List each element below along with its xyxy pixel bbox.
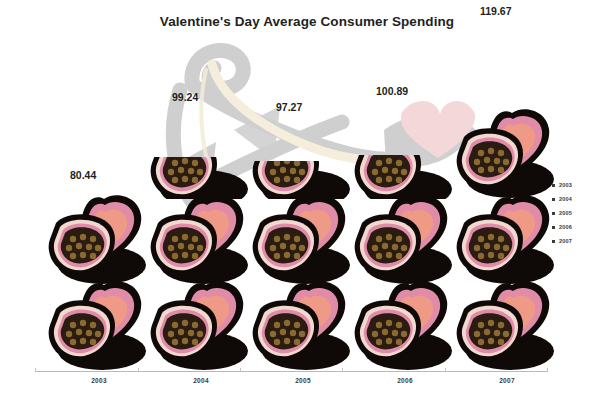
x-axis-label-2005: 2005 — [247, 377, 359, 384]
legend-item-label: 2007 — [559, 238, 572, 244]
axis-tick — [35, 368, 36, 372]
icon-stack-2007 — [450, 107, 562, 371]
chocolate-box-icon — [246, 193, 354, 285]
chocolate-box-icon — [450, 193, 558, 285]
chocolate-box-icon — [348, 279, 456, 371]
plot-area: 80.44 — [0, 0, 614, 407]
legend-item-2004[interactable]: 2004 — [552, 192, 572, 206]
x-axis-label-2004: 2004 — [145, 377, 257, 384]
legend-swatch-icon — [552, 184, 555, 187]
legend-item-label: 2004 — [559, 196, 572, 202]
legend-item-label: 2006 — [559, 224, 572, 230]
chocolate-box-icon — [348, 193, 456, 285]
value-label-2007: 119.67 — [480, 5, 512, 17]
value-label-2004: 99.24 — [172, 91, 198, 103]
legend-item-2003[interactable]: 2003 — [552, 178, 572, 192]
bar-column-2004: 99.24 — [144, 157, 256, 371]
legend-swatch-icon — [552, 226, 555, 229]
legend-item-2005[interactable]: 2005 — [552, 206, 572, 220]
bar-column-2006: 100.89 — [348, 155, 460, 371]
icon-stack-2005 — [246, 161, 358, 371]
legend-swatch-icon — [552, 198, 555, 201]
chocolate-box-icon — [450, 279, 558, 371]
value-label-2006: 100.89 — [376, 85, 408, 97]
x-axis-label-2006: 2006 — [349, 377, 461, 384]
legend-item-2006[interactable]: 2006 — [552, 220, 572, 234]
legend-item-2007[interactable]: 2007 — [552, 234, 572, 248]
icon-stack-2003 — [42, 193, 154, 371]
value-label-2003: 80.44 — [70, 169, 96, 181]
x-axis-label-2007: 2007 — [451, 377, 563, 384]
legend-item-label: 2005 — [559, 210, 572, 216]
bar-column-2005: 97.27 — [246, 161, 358, 371]
chocolate-box-icon — [144, 279, 252, 371]
icon-stack-2006 — [348, 155, 460, 371]
chocolate-box-icon — [450, 107, 558, 199]
legend-item-label: 2003 — [559, 182, 572, 188]
legend-swatch-icon — [552, 240, 555, 243]
legend-swatch-icon — [552, 212, 555, 215]
chocolate-box-icon — [144, 193, 252, 285]
bar-column-2007: 119.67 — [450, 107, 562, 371]
icon-stack-2004 — [144, 157, 256, 371]
value-label-2005: 97.27 — [276, 101, 302, 113]
x-axis-label-2003: 2003 — [43, 377, 155, 384]
x-axis-line — [35, 371, 548, 372]
legend: 2003 2004 2005 2006 2007 — [552, 178, 572, 248]
chocolate-box-icon — [42, 193, 150, 285]
bar-column-2003: 80.44 — [42, 193, 154, 371]
chocolate-box-icon — [246, 279, 354, 371]
chocolate-box-icon — [42, 279, 150, 371]
pictogram-chart: Valentine's Day Average Consumer Spendin… — [0, 0, 614, 407]
